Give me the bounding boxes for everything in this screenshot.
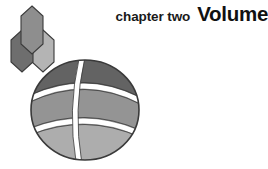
sphere-base <box>31 60 139 160</box>
chapter-title-text: Volume <box>197 4 268 25</box>
hexagon-left <box>11 30 33 72</box>
sphere-bottom-band <box>31 124 139 168</box>
chapter-title-block: chapter two Volume <box>92 4 268 34</box>
hexagon-cluster <box>11 6 54 72</box>
sphere-longitude-line <box>72 58 84 163</box>
chapter-number-label: chapter two <box>116 10 191 24</box>
sphere-outline <box>31 60 139 160</box>
hexagon-top <box>21 6 43 54</box>
sphere-top-cap <box>25 55 150 105</box>
sphere-latitude-line-upper <box>29 82 141 104</box>
hexagon-right <box>32 30 54 72</box>
sphere-latitude-line-lower <box>29 117 141 137</box>
sphere-middle-band <box>31 88 139 131</box>
banded-sphere <box>25 55 150 168</box>
chapter-opener-page: chapter two Volume <box>0 0 268 169</box>
